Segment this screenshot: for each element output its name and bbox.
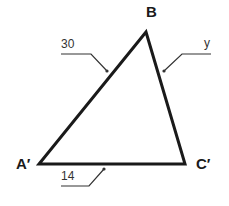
- vertex-label-a-prime: A′: [16, 156, 30, 171]
- side-label-30: 30: [61, 38, 74, 50]
- leader-line-y: [164, 54, 211, 71]
- side-label-14: 14: [61, 170, 74, 182]
- leader-line-30: [61, 54, 107, 71]
- triangle-shape: [39, 32, 185, 164]
- leader-dot-30: [105, 69, 108, 72]
- triangle-diagram: [0, 0, 229, 206]
- leader-dot-14: [102, 167, 105, 170]
- side-label-y: y: [204, 37, 210, 49]
- leader-dot-y: [162, 69, 165, 72]
- vertex-label-b: B: [146, 4, 157, 19]
- vertex-label-c-prime: C′: [196, 156, 210, 171]
